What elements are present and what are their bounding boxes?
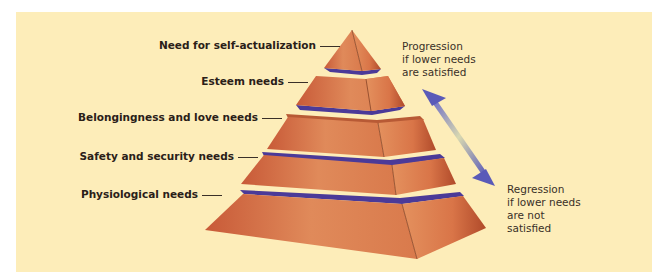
- arrow-down-head-icon: [472, 169, 495, 186]
- leader-line: [238, 157, 258, 158]
- label-physiological: Physiological needs: [81, 188, 222, 201]
- label-belongingness: Belongingness and love needs: [78, 111, 282, 124]
- tier-physiological: [205, 190, 486, 259]
- progression-note: Progression if lower needs are satisfied: [402, 40, 476, 79]
- leader-line: [288, 82, 308, 83]
- arrow-up-head-icon: [422, 89, 446, 106]
- leader-line: [320, 46, 340, 47]
- label-safety: Safety and security needs: [80, 150, 258, 163]
- label-self-actualization: Need for self-actualization: [159, 39, 340, 52]
- leader-line: [262, 118, 282, 119]
- tier-safety: [241, 152, 456, 195]
- regression-note: Regression if lower needs are not satisf…: [507, 183, 581, 235]
- leader-line: [202, 195, 222, 196]
- tier-esteem: [296, 68, 405, 111]
- tier-belongingness: [267, 105, 436, 157]
- label-esteem: Esteem needs: [201, 75, 308, 88]
